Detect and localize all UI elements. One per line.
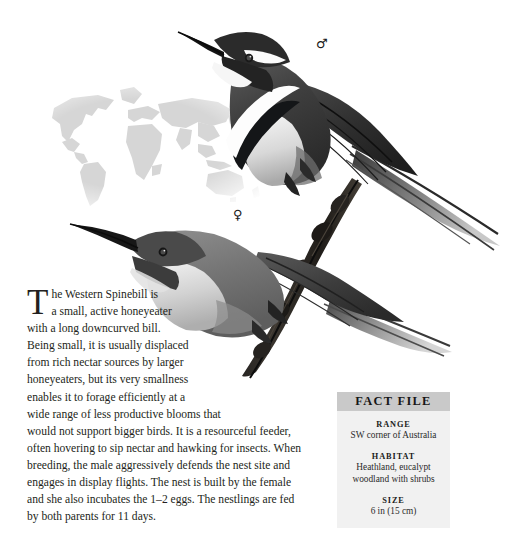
fact-file-label-size: SIZE xyxy=(343,496,444,505)
text-line-10: often hovering to sip nectar and hawking… xyxy=(27,440,333,457)
text-line-1: he Western Spinebill is xyxy=(27,286,333,303)
fact-file-entry-range: RANGE SW corner of Australia xyxy=(343,420,444,441)
drop-cap: T xyxy=(27,286,50,317)
text-line-12: engages in display flights. The nest is … xyxy=(27,474,333,491)
text-line-14: by both parents for 11 days. xyxy=(27,508,333,525)
fact-file-label-habitat: HABITAT xyxy=(343,452,444,461)
fact-file-label-range: RANGE xyxy=(343,420,444,429)
text-line-11: breeding, the male aggressively defends … xyxy=(27,457,333,474)
fact-file-value-habitat-line-2: woodland with shrubs xyxy=(343,474,444,485)
fact-file-entry-habitat: HABITAT Heathland, eucalypt woodland wit… xyxy=(343,452,444,485)
fact-file-value-range: SW corner of Australia xyxy=(343,430,444,441)
male-bill xyxy=(178,32,224,58)
species-page: ♂ ♀ T he Western Spinebill is a small, a… xyxy=(0,0,510,546)
text-line-2: a small, active honeyeater xyxy=(27,303,333,320)
female-gender-symbol: ♀ xyxy=(233,208,243,221)
text-line-9: would not support bigger birds. It is a … xyxy=(27,423,333,440)
description-paragraph: he Western Spinebill is a small, active … xyxy=(27,286,333,525)
fact-file-title: FACT FILE xyxy=(337,392,450,411)
text-line-5: from rich nectar sources by larger xyxy=(27,354,333,371)
female-bill xyxy=(70,224,138,252)
text-line-7: enables it to forage efficiently at a xyxy=(27,389,333,406)
male-gender-symbol: ♂ xyxy=(316,37,328,50)
text-line-3: with a long downcurved bill. xyxy=(27,320,333,337)
fact-file-entry-size: SIZE 6 in (15 cm) xyxy=(343,496,444,517)
fact-file-entries: RANGE SW corner of Australia HABITAT Hea… xyxy=(337,411,450,524)
text-line-4: Being small, it is usually displaced xyxy=(27,337,333,354)
text-line-6: honeyeaters, but its very smallness xyxy=(27,371,333,388)
fact-file-value-size: 6 in (15 cm) xyxy=(343,506,444,517)
fact-file-value-habitat-line-1: Heathland, eucalypt xyxy=(343,462,444,473)
text-line-8: wide range of less productive blooms tha… xyxy=(27,406,333,423)
species-description: T he Western Spinebill is a small, activ… xyxy=(27,286,333,525)
fact-file-panel: FACT FILE RANGE SW corner of Australia H… xyxy=(337,392,450,528)
text-line-13: and she also incubates the 1–2 eggs. The… xyxy=(27,491,333,508)
male-tail xyxy=(346,146,500,250)
